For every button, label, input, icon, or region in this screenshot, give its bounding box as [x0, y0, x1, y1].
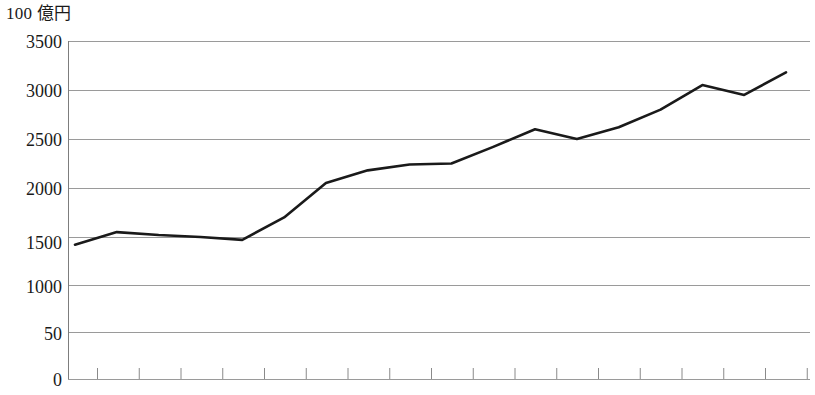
plot-area: [0, 0, 815, 395]
line-chart: 100 億円 3500 3000 2500 2000 1500 1000 50 …: [0, 0, 815, 395]
x-axis-ticks: [98, 368, 808, 379]
gridlines: [68, 42, 810, 380]
data-series-line: [75, 72, 786, 244]
